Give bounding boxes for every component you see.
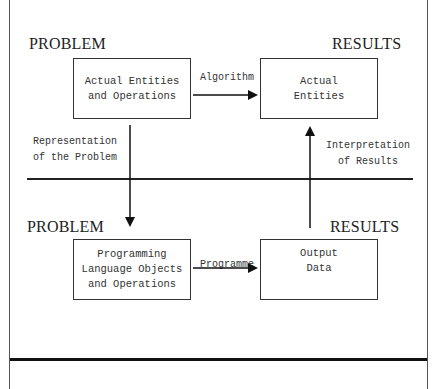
- algorithm-arrow: [193, 90, 258, 100]
- interpretation-arrow: [305, 126, 315, 228]
- programme-arrow: [193, 263, 258, 273]
- arrows-layer: [0, 0, 437, 389]
- representation-arrow: [125, 125, 135, 227]
